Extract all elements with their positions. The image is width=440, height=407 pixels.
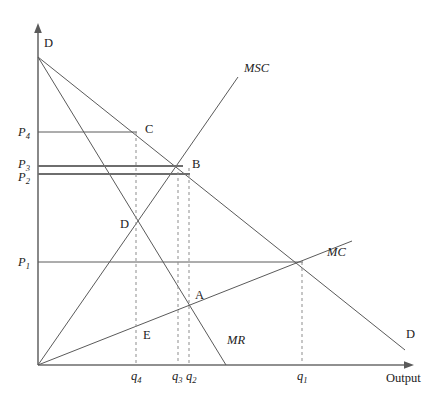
marginal-cost-curve (38, 241, 352, 365)
label-point-d-mid: D (120, 217, 129, 231)
curves-group (38, 57, 405, 365)
curve-labels-group: MSC MC MR D D (44, 36, 415, 347)
label-q2-sub: 2 (192, 375, 197, 385)
label-demand-right: D (406, 327, 415, 341)
label-p1-sub: 1 (26, 261, 30, 271)
label-p3-base: P (17, 157, 26, 171)
label-mc: MC (326, 245, 346, 259)
label-p1-base: P (17, 255, 26, 269)
quantity-axis-labels-group: q4 q3 q2 q1 (131, 369, 308, 385)
label-p2-sub: 2 (26, 176, 31, 186)
label-q1: q1 (297, 369, 308, 385)
diagram-canvas: MSC MC MR D D C B D A E P4 P3 P2 (0, 0, 440, 407)
marginal-social-cost-curve (38, 77, 238, 365)
marginal-revenue-curve (38, 57, 226, 365)
label-demand-top: D (44, 36, 53, 50)
label-point-a: A (195, 288, 204, 302)
label-q2: q2 (186, 369, 197, 385)
y-axis-arrowhead (34, 23, 42, 33)
x-axis-title: Output (386, 371, 421, 385)
x-axis-arrowhead (404, 361, 414, 369)
axes-group (34, 23, 414, 369)
price-axis-labels-group: P4 P3 P2 P1 (17, 125, 31, 271)
label-q4-sub: 4 (137, 375, 142, 385)
label-q3-sub: 3 (177, 375, 182, 385)
label-q3: q3 (172, 369, 183, 385)
label-msc: MSC (243, 61, 270, 75)
label-p4-sub: 4 (26, 131, 31, 141)
label-point-c: C (145, 122, 153, 136)
label-point-b: B (192, 157, 200, 171)
label-q1-sub: 1 (303, 375, 307, 385)
label-p4: P4 (17, 125, 31, 141)
price-lines-group (38, 132, 303, 262)
label-p1: P1 (17, 255, 30, 271)
label-mr: MR (226, 333, 245, 347)
label-p4-base: P (17, 125, 26, 139)
label-q4: q4 (131, 369, 142, 385)
label-point-e: E (143, 328, 151, 342)
economics-diagram-figure: MSC MC MR D D C B D A E P4 P3 P2 (0, 0, 440, 407)
label-p2-base: P (17, 170, 26, 184)
